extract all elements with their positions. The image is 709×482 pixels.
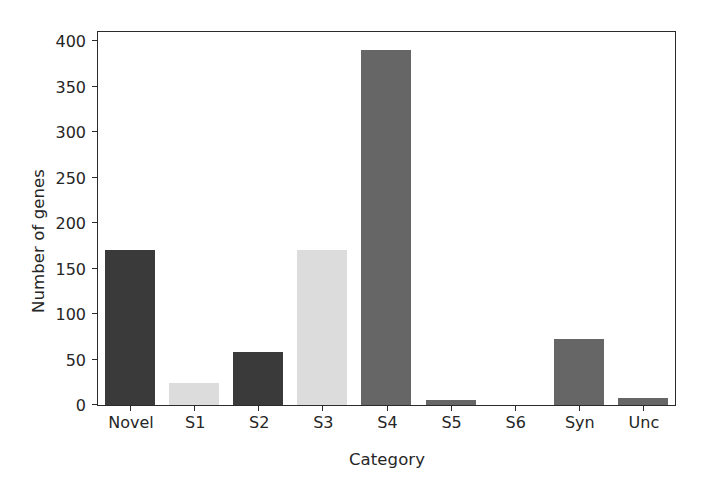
y-axis-tick-label: 300 <box>55 123 86 142</box>
x-axis-tick: S3 <box>322 405 323 411</box>
bar-s2 <box>233 352 283 405</box>
x-axis-tick-label: S1 <box>185 413 205 432</box>
x-axis-title: Category <box>97 450 677 469</box>
x-axis-tick-label: Unc <box>629 413 660 432</box>
x-axis-tick: Novel <box>130 405 131 411</box>
y-axis-tick-label: 50 <box>66 350 86 369</box>
x-axis-tick-label: Novel <box>108 413 154 432</box>
x-axis-tick: S2 <box>258 405 259 411</box>
bar-unc <box>618 398 668 405</box>
y-axis-tick-label: 350 <box>55 77 86 96</box>
bar-s1 <box>169 383 219 405</box>
y-axis-tick-label: 100 <box>55 305 86 324</box>
x-axis-tick-label: S5 <box>441 413 461 432</box>
y-axis-tick-label: 200 <box>55 214 86 233</box>
bar-series <box>98 32 675 405</box>
y-axis-tick-label: 400 <box>55 32 86 51</box>
x-axis-tick-label: S4 <box>377 413 397 432</box>
y-axis-tick-label: 150 <box>55 259 86 278</box>
x-axis-tick: Unc <box>643 405 644 411</box>
bar-s5 <box>426 400 476 405</box>
x-axis-tick: Syn <box>579 405 580 411</box>
x-axis-tick-label: S2 <box>249 413 269 432</box>
x-axis-tick-label: S3 <box>313 413 333 432</box>
bar-syn <box>554 339 604 405</box>
bar-s3 <box>297 250 347 405</box>
bar-chart-figure: Number of genes 050100150200250300350400… <box>0 0 709 482</box>
x-axis-tick: S1 <box>194 405 195 411</box>
y-axis-tick-label: 250 <box>55 168 86 187</box>
bar-novel <box>105 250 155 405</box>
y-axis-title: Number of genes <box>18 0 58 482</box>
x-axis-tick: S6 <box>515 405 516 411</box>
plot-area: 050100150200250300350400 NovelS1S2S3S4S5… <box>97 31 676 406</box>
x-axis-tick-label: Syn <box>565 413 595 432</box>
x-axis-tick: S5 <box>451 405 452 411</box>
x-axis-tick-label: S6 <box>506 413 526 432</box>
x-axis-tick: S4 <box>387 405 388 411</box>
y-axis-tick-label: 0 <box>76 396 86 415</box>
bar-s4 <box>361 50 411 405</box>
